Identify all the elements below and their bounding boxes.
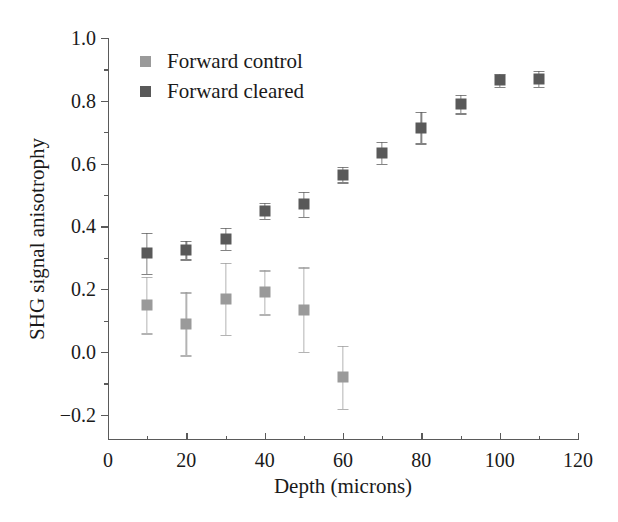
x-tick-major: [186, 433, 187, 440]
legend-label: Forward control: [167, 51, 303, 72]
error-bar-cap-lower: [298, 217, 309, 218]
y-axis-title-holder: SHG signal anisotrophy: [22, 38, 52, 440]
x-tick-label: 120: [563, 450, 593, 470]
series-marker: [220, 234, 231, 245]
error-bar-line: [225, 228, 226, 250]
x-tick-minor: [539, 436, 540, 441]
error-bar-line: [147, 277, 148, 334]
data-point: [220, 293, 232, 305]
error-bar-cap-lower: [181, 259, 192, 260]
error-bar-cap-lower: [220, 335, 231, 336]
series-marker: [142, 248, 153, 259]
x-tick-label: 100: [485, 450, 515, 470]
error-bar-line: [186, 241, 187, 260]
x-tick-minor: [461, 436, 462, 441]
error-bar-cap-upper: [259, 270, 270, 271]
series-marker: [377, 147, 388, 158]
y-tick-minor: [104, 321, 109, 322]
y-tick-minor: [104, 258, 109, 259]
error-bar-cap-upper: [142, 277, 153, 278]
error-bar-cap-upper: [416, 112, 427, 113]
series-marker: [181, 244, 192, 255]
data-point: [220, 233, 232, 245]
series-marker: [494, 75, 505, 86]
legend-swatch-icon: [140, 56, 151, 67]
x-tick-label: 60: [333, 450, 353, 470]
x-tick-major: [343, 433, 344, 440]
data-point: [533, 73, 545, 85]
y-tick-minor: [104, 132, 109, 133]
data-point: [141, 299, 153, 311]
data-point: [259, 286, 271, 298]
data-point: [337, 169, 349, 181]
legend-item-forward-cleared: Forward cleared: [140, 76, 370, 106]
error-bar-line: [538, 71, 539, 87]
y-tick-label: −0.2: [60, 405, 96, 425]
legend-item-forward-control: Forward control: [140, 46, 370, 76]
data-point: [259, 205, 271, 217]
series-marker: [220, 293, 231, 304]
error-bar-cap-upper: [533, 71, 544, 72]
error-bar-cap-lower: [298, 352, 309, 353]
data-point: [337, 371, 349, 383]
data-point: [415, 122, 427, 134]
x-tick-label: 40: [255, 450, 275, 470]
x-tick-minor: [382, 436, 383, 441]
error-bar-cap-lower: [142, 274, 153, 275]
data-point: [180, 318, 192, 330]
y-tick-major: [101, 101, 108, 102]
y-tick-label: 0.8: [71, 91, 96, 111]
series-marker: [298, 199, 309, 210]
x-tick-label: 80: [411, 450, 431, 470]
y-tick-minor: [104, 195, 109, 196]
x-tick-minor: [304, 436, 305, 441]
error-bar-cap-lower: [259, 314, 270, 315]
error-bar-cap-upper: [298, 192, 309, 193]
error-bar-line: [342, 346, 343, 409]
y-tick-major: [101, 352, 108, 353]
x-tick-major: [421, 433, 422, 440]
error-bar-line: [421, 112, 422, 143]
error-bar-cap-upper: [220, 263, 231, 264]
x-tick-major: [500, 433, 501, 440]
x-tick-label: 20: [176, 450, 196, 470]
x-tick-major: [578, 433, 579, 440]
error-bar-line: [264, 270, 265, 314]
error-bar-cap-lower: [416, 143, 427, 144]
series-marker: [298, 304, 309, 315]
error-bar-line: [303, 192, 304, 217]
y-axis-spine: [108, 38, 109, 440]
y-tick-label: 0.6: [71, 154, 96, 174]
series-marker: [259, 287, 270, 298]
data-point: [180, 244, 192, 256]
error-bar-cap-upper: [142, 233, 153, 234]
error-bar-cap-lower: [338, 182, 349, 183]
data-point: [494, 74, 506, 86]
error-bar-cap-upper: [259, 203, 270, 204]
error-bar-cap-lower: [377, 164, 388, 165]
x-tick-minor: [147, 436, 148, 441]
data-point: [141, 247, 153, 259]
legend: Forward control Forward cleared: [140, 46, 370, 106]
error-bar-cap-upper: [338, 346, 349, 347]
error-bar-cap-lower: [494, 87, 505, 88]
legend-swatch-icon: [140, 86, 151, 97]
y-tick-minor: [104, 69, 109, 70]
y-tick-major: [101, 289, 108, 290]
error-bar-cap-upper: [220, 228, 231, 229]
error-bar-cap-lower: [181, 355, 192, 356]
error-bar-line: [225, 263, 226, 335]
data-point: [455, 98, 467, 110]
figure-scatter-plot: SHG signal anisotrophy −0.20.00.20.40.60…: [0, 0, 618, 522]
error-bar-cap-upper: [181, 241, 192, 242]
error-bar-cap-upper: [298, 267, 309, 268]
x-axis-title: Depth (microns): [108, 474, 578, 499]
series-marker: [416, 122, 427, 133]
y-tick-major: [101, 38, 108, 39]
x-tick-label: 0: [103, 450, 113, 470]
error-bar-cap-lower: [455, 113, 466, 114]
error-bar-cap-lower: [259, 219, 270, 220]
error-bar-cap-upper: [181, 292, 192, 293]
data-point: [298, 198, 310, 210]
y-tick-major: [101, 226, 108, 227]
